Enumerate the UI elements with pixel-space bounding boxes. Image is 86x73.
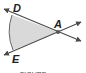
label-e: E (12, 53, 20, 65)
vertex-point (56, 30, 60, 34)
angle-diagram: D A E FIGURE (0, 0, 86, 73)
caption: FIGURE (20, 71, 47, 73)
label-d: D (13, 2, 21, 14)
shaded-sector (9, 15, 58, 50)
label-a: A (53, 18, 62, 30)
